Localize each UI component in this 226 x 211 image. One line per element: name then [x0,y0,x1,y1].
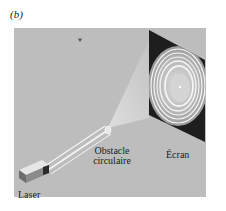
mark-icon [78,38,82,42]
label-obstacle: Obstacle circulaire [82,146,142,166]
diffraction-setup-diagram [0,0,226,211]
label-screen: Écran [166,150,189,160]
screen [148,30,208,142]
circular-obstacle [105,126,111,134]
laser-device [19,160,49,183]
label-obstacle-line2: circulaire [82,156,142,166]
diffraction-cone [108,40,149,128]
label-laser: Laser [18,190,40,200]
